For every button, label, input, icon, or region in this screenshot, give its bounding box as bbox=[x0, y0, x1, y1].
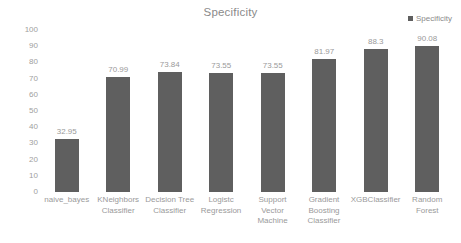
x-axis-label-line: KNeighbors bbox=[93, 195, 142, 206]
x-axis-tick-label: SupportVectorMachine bbox=[247, 195, 298, 227]
chart-title: Specificity bbox=[0, 6, 461, 18]
bar-value-label: 88.3 bbox=[368, 38, 384, 46]
legend-swatch-icon bbox=[408, 16, 413, 21]
x-axis-tick-label: LogistcRegression bbox=[195, 195, 246, 227]
y-axis-tick-label: 80 bbox=[0, 58, 38, 66]
bar-value-label: 70.99 bbox=[108, 66, 128, 74]
bar[interactable] bbox=[106, 77, 130, 192]
x-axis-label-line: XGBClassifier bbox=[351, 195, 401, 206]
bar-value-label: 73.55 bbox=[263, 62, 283, 70]
y-axis: 1009080706050403020100 bbox=[0, 30, 38, 192]
bar[interactable] bbox=[261, 73, 285, 192]
x-axis-label-line: Classifier bbox=[93, 206, 142, 217]
bar[interactable] bbox=[209, 73, 233, 192]
x-axis-tick-label: GradientBoostingClassifier bbox=[298, 195, 349, 227]
y-axis-tick-label: 50 bbox=[0, 107, 38, 115]
y-axis-tick-label: 40 bbox=[0, 123, 38, 131]
x-axis-label-line: Gradient bbox=[299, 195, 348, 206]
x-axis-label-line: Regression bbox=[196, 206, 245, 217]
bar-chart: Specificity Specificity 1009080706050403… bbox=[0, 0, 461, 243]
x-axis-label-line: Classifier bbox=[145, 206, 194, 217]
x-axis-label-line: Support bbox=[248, 195, 297, 206]
y-axis-tick-label: 70 bbox=[0, 75, 38, 83]
bar-value-label: 73.55 bbox=[211, 62, 231, 70]
x-axis: naive_bayesKNeighborsClassifierDecision … bbox=[41, 195, 453, 227]
bar-slot: 73.55 bbox=[196, 30, 248, 192]
bar[interactable] bbox=[415, 46, 439, 192]
bar[interactable] bbox=[364, 49, 388, 192]
x-axis-label-line: Boosting bbox=[299, 206, 348, 217]
x-axis-label-line: Decision Tree bbox=[145, 195, 194, 206]
bar[interactable] bbox=[312, 59, 336, 192]
bar-value-label: 73.84 bbox=[160, 61, 180, 69]
y-axis-tick-label: 60 bbox=[0, 91, 38, 99]
y-axis-tick-label: 100 bbox=[0, 26, 38, 34]
x-axis-label-line: naive_bayes bbox=[42, 195, 91, 206]
x-axis-label-line: Random bbox=[403, 195, 452, 206]
x-axis-label-line: Logistc bbox=[196, 195, 245, 206]
x-axis-tick-label: KNeighborsClassifier bbox=[92, 195, 143, 227]
x-axis-tick-label: RandomForest bbox=[402, 195, 453, 227]
y-axis-tick-label: 90 bbox=[0, 42, 38, 50]
y-axis-tick-label: 20 bbox=[0, 156, 38, 164]
x-axis-tick-label: XGBClassifier bbox=[350, 195, 402, 227]
bar-value-label: 81.97 bbox=[314, 48, 334, 56]
bar-slot: 73.55 bbox=[247, 30, 299, 192]
x-axis-label-line: Vector bbox=[248, 206, 297, 217]
bar[interactable] bbox=[158, 72, 182, 192]
x-axis-tick-label: Decision TreeClassifier bbox=[144, 195, 195, 227]
bar[interactable] bbox=[55, 139, 79, 192]
bar-slot: 73.84 bbox=[144, 30, 196, 192]
chart-legend: Specificity bbox=[408, 14, 452, 23]
x-axis-tick-label: naive_bayes bbox=[41, 195, 92, 227]
y-axis-tick-label: 30 bbox=[0, 139, 38, 147]
bar-value-label: 90.08 bbox=[417, 35, 437, 43]
x-axis-label-line: Classifier bbox=[299, 216, 348, 227]
bar-group: 32.9570.9973.8473.5573.5581.9788.390.08 bbox=[41, 30, 453, 192]
y-axis-tick-label: 0 bbox=[0, 188, 38, 196]
bar-slot: 70.99 bbox=[93, 30, 145, 192]
bar-slot: 90.08 bbox=[402, 30, 454, 192]
x-axis-label-line: Forest bbox=[403, 206, 452, 217]
legend-label: Specificity bbox=[416, 14, 452, 23]
x-axis-label-line: Machine bbox=[248, 216, 297, 227]
bar-slot: 32.95 bbox=[41, 30, 93, 192]
bar-slot: 81.97 bbox=[299, 30, 351, 192]
plot-area: 32.9570.9973.8473.5573.5581.9788.390.08 bbox=[41, 30, 453, 192]
bar-value-label: 32.95 bbox=[57, 128, 77, 136]
bar-slot: 88.3 bbox=[350, 30, 402, 192]
y-axis-tick-label: 10 bbox=[0, 172, 38, 180]
